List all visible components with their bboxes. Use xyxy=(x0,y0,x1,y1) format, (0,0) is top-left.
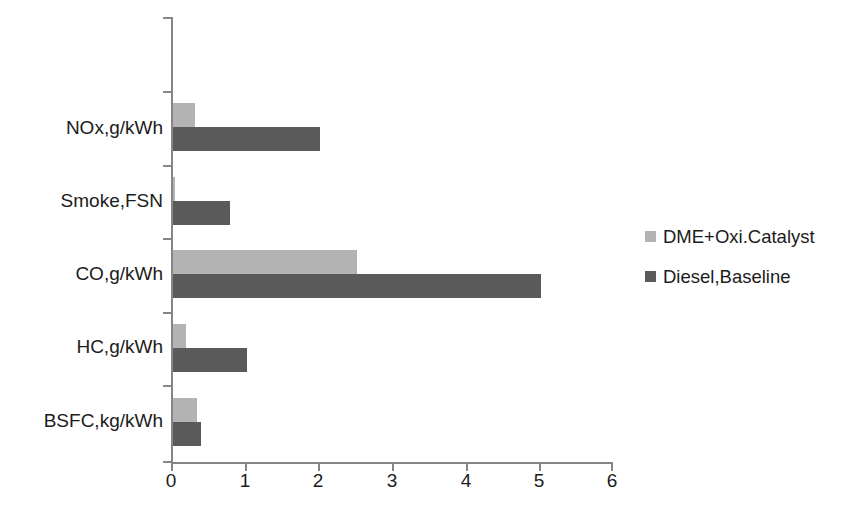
x-axis-label-5: 5 xyxy=(519,470,559,492)
y-axis-line xyxy=(171,17,173,464)
bar-hc-diesel xyxy=(173,348,247,372)
x-axis-label-6: 6 xyxy=(592,470,632,492)
bar-co-dme xyxy=(173,250,357,274)
y-axis-tick-5 xyxy=(163,385,172,387)
bar-chart-figure: NOx,g/kWh Smoke,FSN CO,g/kWh HC,g/kWh BS… xyxy=(0,0,861,518)
y-axis-label-smoke: Smoke,FSN xyxy=(3,191,163,210)
y-axis-tick-4 xyxy=(163,312,172,314)
legend-swatch-icon-dme xyxy=(645,231,656,242)
y-axis-tick-top xyxy=(163,17,172,19)
bar-bsfc-diesel xyxy=(173,422,201,446)
x-axis-label-3: 3 xyxy=(372,470,412,492)
y-axis-label-co: CO,g/kWh xyxy=(3,264,163,283)
y-axis-label-hc: HC,g/kWh xyxy=(3,337,163,356)
y-axis-label-nox: NOx,g/kWh xyxy=(3,118,163,137)
chart-legend: DME+Oxi.Catalyst Diesel,Baseline xyxy=(645,222,860,302)
bar-hc-dme xyxy=(173,324,186,348)
y-axis-tick-3 xyxy=(163,238,172,240)
bar-nox-diesel xyxy=(173,127,320,151)
x-axis-label-0: 0 xyxy=(151,470,191,492)
x-axis-tick-labels: 0 1 2 3 4 5 6 xyxy=(171,470,613,500)
plot-area xyxy=(171,17,613,464)
legend-item-dme-oxi-catalyst: DME+Oxi.Catalyst xyxy=(645,222,860,251)
bar-co-diesel xyxy=(173,274,541,298)
bar-bsfc-dme xyxy=(173,398,197,422)
bar-smoke-diesel xyxy=(173,201,230,225)
bar-nox-dme xyxy=(173,103,195,127)
legend-swatch-icon-diesel xyxy=(645,271,656,282)
legend-item-diesel-baseline: Diesel,Baseline xyxy=(645,262,860,291)
x-axis-label-4: 4 xyxy=(446,470,486,492)
y-axis-label-bsfc: BSFC,kg/kWh xyxy=(3,411,163,430)
x-axis-label-1: 1 xyxy=(225,470,265,492)
legend-label-diesel: Diesel,Baseline xyxy=(663,267,791,287)
bar-smoke-dme xyxy=(173,177,175,201)
x-axis-label-2: 2 xyxy=(298,470,338,492)
legend-label-dme: DME+Oxi.Catalyst xyxy=(663,227,815,247)
y-axis-category-labels: NOx,g/kWh Smoke,FSN CO,g/kWh HC,g/kWh BS… xyxy=(0,0,163,518)
y-axis-tick-2 xyxy=(163,165,172,167)
y-axis-tick-1 xyxy=(163,91,172,93)
